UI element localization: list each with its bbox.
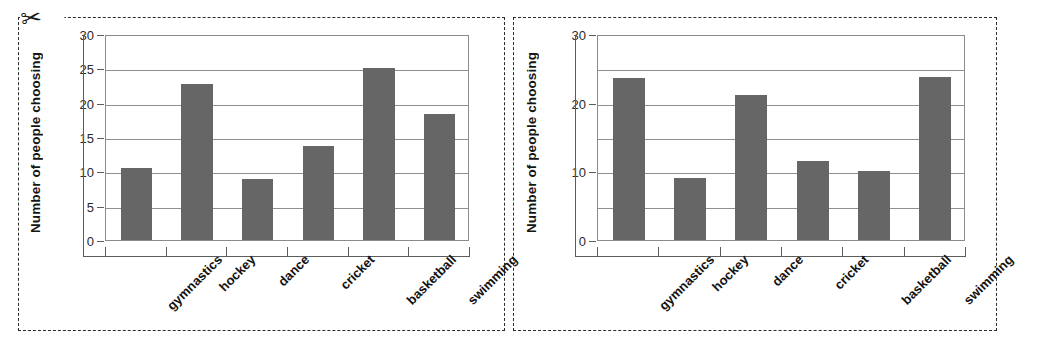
x-axis-label-dance: dance (769, 252, 806, 289)
x-axis-tick-mark (597, 247, 598, 257)
gridline (598, 208, 964, 209)
y-axis-tick-mark (589, 172, 596, 173)
x-axis-tick-mark (904, 247, 905, 257)
bar-chart-right: Number of people choosing0102030gymnasti… (0, 0, 1063, 353)
x-axis-tick-mark (720, 247, 721, 257)
y-axis-tick-label: 10 (558, 165, 586, 180)
y-axis-tick-label: 0 (558, 234, 586, 249)
bar-cricket (797, 161, 829, 240)
x-axis-label-cricket: cricket (831, 252, 871, 292)
bar-dance (735, 95, 767, 240)
y-axis-tick-mark (589, 35, 596, 36)
bar-basketball (858, 171, 890, 240)
x-axis-label-basketball: basketball (899, 252, 955, 308)
bar-swimming (919, 77, 951, 240)
y-axis-tick-mark (589, 241, 596, 242)
x-axis-tick-mark (658, 247, 659, 257)
x-axis-label-swimming: swimming (960, 252, 1016, 308)
x-axis-label-hockey: hockey (709, 252, 751, 294)
gridline (598, 70, 964, 71)
x-axis-label-gymnastics: gymnastics (656, 252, 717, 313)
y-axis-line (575, 35, 576, 257)
gridline (598, 105, 964, 106)
x-axis-tick-mark (781, 247, 782, 257)
x-axis-tick-mark (842, 247, 843, 257)
y-axis-tick-mark (589, 104, 596, 105)
y-axis-tick-label: 30 (558, 28, 586, 43)
plot-area (597, 35, 965, 241)
x-axis-tick-mark (965, 247, 966, 257)
gridline (598, 139, 964, 140)
bar-gymnastics (613, 78, 645, 240)
x-axis-line (575, 256, 965, 257)
bar-hockey (674, 178, 706, 240)
worksheet-sheet: ✂ Number of people choosing051015202530g… (0, 0, 1063, 353)
y-axis-title: Number of people choosing (524, 37, 539, 247)
y-axis-tick-label: 20 (558, 96, 586, 111)
gridline (598, 173, 964, 174)
